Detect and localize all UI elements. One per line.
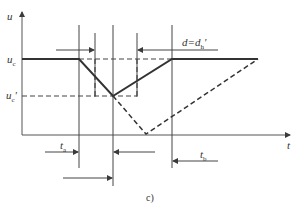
- d-equation-label: d=dh': [182, 37, 206, 51]
- uc-prime-label: uc': [6, 90, 17, 104]
- x-axis-label: t: [287, 140, 290, 151]
- y-axis-label: u: [7, 11, 13, 22]
- tb-label: tb: [200, 149, 207, 163]
- uc-label: uc: [7, 54, 16, 68]
- voltage-curve: [22, 59, 258, 96]
- figure-caption: c): [146, 193, 154, 203]
- voltage-time-diagram: u t uc uc' d=dh' ta tb c): [0, 0, 305, 209]
- ta-label: ta: [60, 140, 66, 154]
- diagram-graphics: [0, 0, 305, 209]
